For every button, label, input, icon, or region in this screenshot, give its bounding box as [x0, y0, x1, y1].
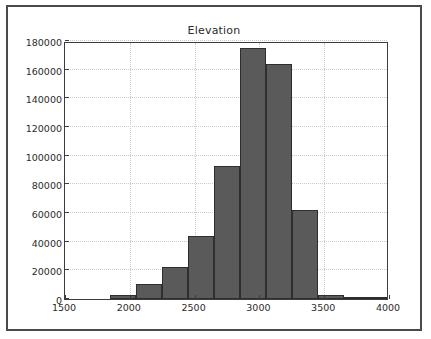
x-axis-tick-labels: 150020002500300035004000 [64, 300, 388, 316]
y-tick-label: 120000 [26, 123, 62, 134]
plot-area [64, 42, 388, 300]
chart-title: Elevation [8, 24, 420, 37]
x-tick-mark [259, 295, 260, 299]
y-tick-label: 80000 [32, 180, 62, 191]
x-tick-mark [389, 295, 390, 299]
x-tick-mark [324, 295, 325, 299]
x-axis-tick-marks [65, 43, 387, 299]
y-tick-label: 160000 [26, 65, 62, 76]
x-tick-label: 3500 [311, 302, 335, 313]
x-tick-label: 2500 [182, 302, 206, 313]
y-tick-label: 100000 [26, 151, 62, 162]
x-tick-mark [195, 295, 196, 299]
x-tick-label: 4000 [376, 302, 400, 313]
figure-frame: Elevation 020000400006000080000100000120… [6, 5, 422, 331]
y-tick-label: 40000 [32, 237, 62, 248]
y-tick-mark [65, 40, 69, 41]
y-tick-label: 20000 [32, 266, 62, 277]
y-tick-label: 180000 [26, 37, 62, 48]
x-tick-label: 3000 [246, 302, 270, 313]
gridline-horizontal [65, 40, 387, 41]
x-tick-mark [65, 295, 66, 299]
x-tick-label: 2000 [117, 302, 141, 313]
x-tick-label: 1500 [52, 302, 76, 313]
y-tick-label: 140000 [26, 94, 62, 105]
x-tick-mark [130, 295, 131, 299]
y-axis-tick-labels: 0200004000060000800001000001200001400001… [14, 42, 62, 300]
y-tick-label: 60000 [32, 209, 62, 220]
